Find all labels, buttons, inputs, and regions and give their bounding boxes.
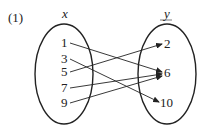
domain-set-name: x [61,6,68,21]
mapping-diagram: (1) x y 1 3 5 7 9 2 6 10 [0,0,204,130]
codomain-element-10: 10 [160,95,173,110]
domain-element-1: 1 [61,35,68,50]
codomain-element-6: 6 [164,65,171,80]
codomain-set-name: y [162,6,170,21]
problem-label: (1) [8,10,23,25]
arrow-9-to-6 [70,76,162,103]
domain-element-9: 9 [61,95,68,110]
domain-element-5: 5 [61,64,68,79]
domain-element-7: 7 [61,80,68,95]
arrow-7-to-6 [70,74,162,88]
codomain-element-2: 2 [164,36,171,51]
